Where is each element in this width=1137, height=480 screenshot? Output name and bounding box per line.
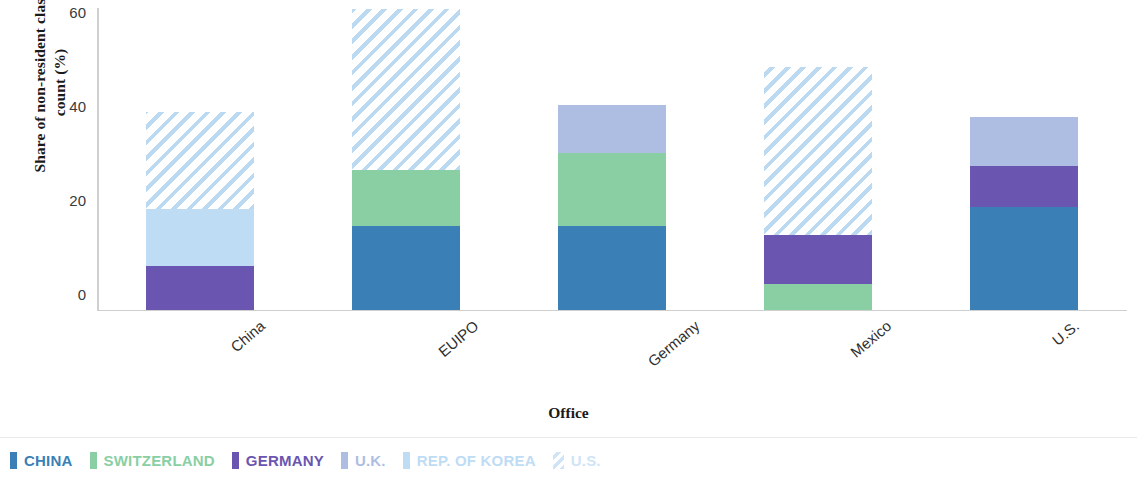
segment-china[interactable] (558, 226, 665, 309)
y-axis-tick-40: 40 (69, 97, 86, 114)
segment-germany[interactable] (970, 166, 1077, 207)
x-axis-tick-germany: Germany (644, 317, 702, 370)
legend-label: GERMANY (246, 452, 324, 469)
bar-euipo[interactable] (352, 9, 459, 310)
segment-rep-of-korea[interactable] (146, 209, 253, 266)
legend-swatch-icon (90, 452, 97, 469)
legend-item-switzerland[interactable]: SWITZERLAND (90, 452, 215, 469)
x-axis-tick-mexico: Mexico (847, 317, 894, 361)
legend-swatch-icon (232, 452, 239, 469)
stacked-bar-chart: Share of non-resident class count (%) 02… (0, 0, 1137, 480)
legend-label: REP. OF KOREA (417, 452, 536, 469)
plot-area: 0204060 (97, 8, 1127, 311)
y-axis-title-line1: Share of non-resident class (31, 0, 48, 172)
segment-china[interactable] (352, 226, 459, 309)
segment-switzerland[interactable] (558, 153, 665, 226)
legend-item-rep-of-korea[interactable]: REP. OF KOREA (403, 452, 536, 469)
chart-legend: CHINASWITZERLANDGERMANYU.K.REP. OF KOREA… (10, 452, 618, 469)
segment-germany[interactable] (764, 235, 871, 284)
legend-swatch-icon (403, 452, 410, 469)
segment-switzerland[interactable] (352, 170, 459, 226)
bar-mexico[interactable] (764, 67, 871, 310)
x-axis-line (97, 310, 1127, 312)
bar-u-s[interactable] (970, 117, 1077, 310)
bar-germany[interactable] (558, 105, 665, 309)
legend-label: U.S. (571, 452, 601, 469)
legend-label: CHINA (24, 452, 73, 469)
x-axis-tick-euipo: EUIPO (435, 317, 482, 360)
legend-item-u-s[interactable]: U.S. (553, 452, 601, 469)
segment-switzerland[interactable] (764, 284, 871, 309)
y-axis-title-line2: count (%) (51, 49, 68, 117)
legend-divider (0, 437, 1137, 438)
segment-u-s[interactable] (352, 9, 459, 170)
legend-label: U.K. (355, 452, 386, 469)
legend-label: SWITZERLAND (104, 452, 215, 469)
y-axis-tick-60: 60 (69, 3, 86, 20)
segment-china[interactable] (970, 207, 1077, 310)
y-axis-tick-0: 0 (78, 286, 86, 303)
segment-u-k[interactable] (558, 105, 665, 153)
bar-china[interactable] (146, 112, 253, 309)
segment-u-k[interactable] (970, 117, 1077, 166)
y-axis-tick-20: 20 (69, 191, 86, 208)
segment-germany[interactable] (146, 266, 253, 310)
legend-item-china[interactable]: CHINA (10, 452, 73, 469)
y-axis-line (97, 8, 99, 311)
legend-swatch-icon (341, 452, 348, 469)
legend-swatch-icon (553, 452, 564, 469)
legend-item-u-k[interactable]: U.K. (341, 452, 386, 469)
legend-swatch-icon (10, 452, 17, 469)
x-axis-title: Office (0, 404, 1137, 422)
x-axis-tick-u-s: U.S. (1049, 317, 1082, 349)
segment-u-s[interactable] (146, 112, 253, 208)
legend-item-germany[interactable]: GERMANY (232, 452, 324, 469)
x-axis-tick-china: China (227, 317, 268, 355)
segment-u-s[interactable] (764, 67, 871, 235)
y-axis-title: Share of non-resident class count (%) (30, 0, 71, 212)
